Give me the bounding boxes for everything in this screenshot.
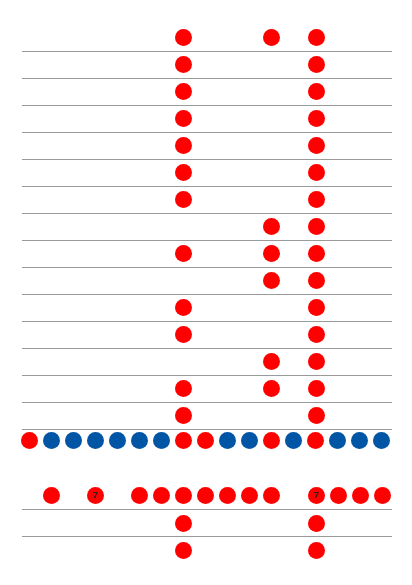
red-dot [307,432,324,449]
red-dot [175,299,192,316]
red-dot [308,218,325,235]
red-dot [308,380,325,397]
red-dot [308,56,325,73]
red-dot [241,487,258,504]
red-dot [263,29,280,46]
red-dot [175,487,192,504]
red-dot [21,432,38,449]
red-dot [175,56,192,73]
red-dot [197,487,214,504]
blue-dot [131,432,148,449]
red-dot [374,487,391,504]
red-dot [175,164,192,181]
dot-label: 7 [92,490,97,500]
grid-line [22,429,392,430]
dot-label: 7 [313,490,318,500]
red-dot [131,487,148,504]
grid-line [22,375,392,376]
blue-dot [329,432,346,449]
dot-grid-board: 77 [0,0,412,585]
red-dot [263,380,280,397]
red-dot [263,272,280,289]
red-dot [308,164,325,181]
red-dot [175,110,192,127]
red-dot [43,487,60,504]
red-dot [308,353,325,370]
red-dot [263,245,280,262]
grid-line [22,51,392,52]
grid-line [22,348,392,349]
grid-line [22,536,392,537]
blue-dot [65,432,82,449]
grid-line [22,159,392,160]
red-dot [153,487,170,504]
red-dot [175,380,192,397]
red-dot [352,487,369,504]
red-dot [263,487,280,504]
red-dot [330,487,347,504]
red-dot [175,245,192,262]
blue-dot [109,432,126,449]
red-dot [308,110,325,127]
numbered-dot: 7 [308,487,325,504]
grid-line [22,267,392,268]
red-dot [219,487,236,504]
blue-dot [219,432,236,449]
red-dot [308,272,325,289]
blue-dot [373,432,390,449]
red-dot [175,432,192,449]
numbered-dot: 7 [87,487,104,504]
red-dot [308,407,325,424]
blue-dot [153,432,170,449]
red-dot [263,353,280,370]
red-dot [197,432,214,449]
red-dot [263,218,280,235]
red-dot [175,191,192,208]
red-dot [175,83,192,100]
blue-dot [285,432,302,449]
red-dot [175,326,192,343]
red-dot [175,407,192,424]
red-dot [308,515,325,532]
red-dot [308,137,325,154]
red-dot [308,83,325,100]
red-dot [308,29,325,46]
red-dot [175,542,192,559]
grid-line [22,78,392,79]
grid-line [22,186,392,187]
blue-dot [241,432,258,449]
blue-dot [43,432,60,449]
red-dot [308,326,325,343]
red-dot [175,515,192,532]
grid-line [22,240,392,241]
grid-line [22,294,392,295]
red-dot [263,432,280,449]
red-dot [308,542,325,559]
grid-line [22,132,392,133]
grid-line [22,509,392,510]
red-dot [308,191,325,208]
blue-dot [351,432,368,449]
red-dot [308,245,325,262]
grid-line [22,105,392,106]
grid-line [22,321,392,322]
grid-line [22,213,392,214]
grid-line [22,402,392,403]
red-dot [308,299,325,316]
red-dot [175,137,192,154]
blue-dot [87,432,104,449]
red-dot [175,29,192,46]
